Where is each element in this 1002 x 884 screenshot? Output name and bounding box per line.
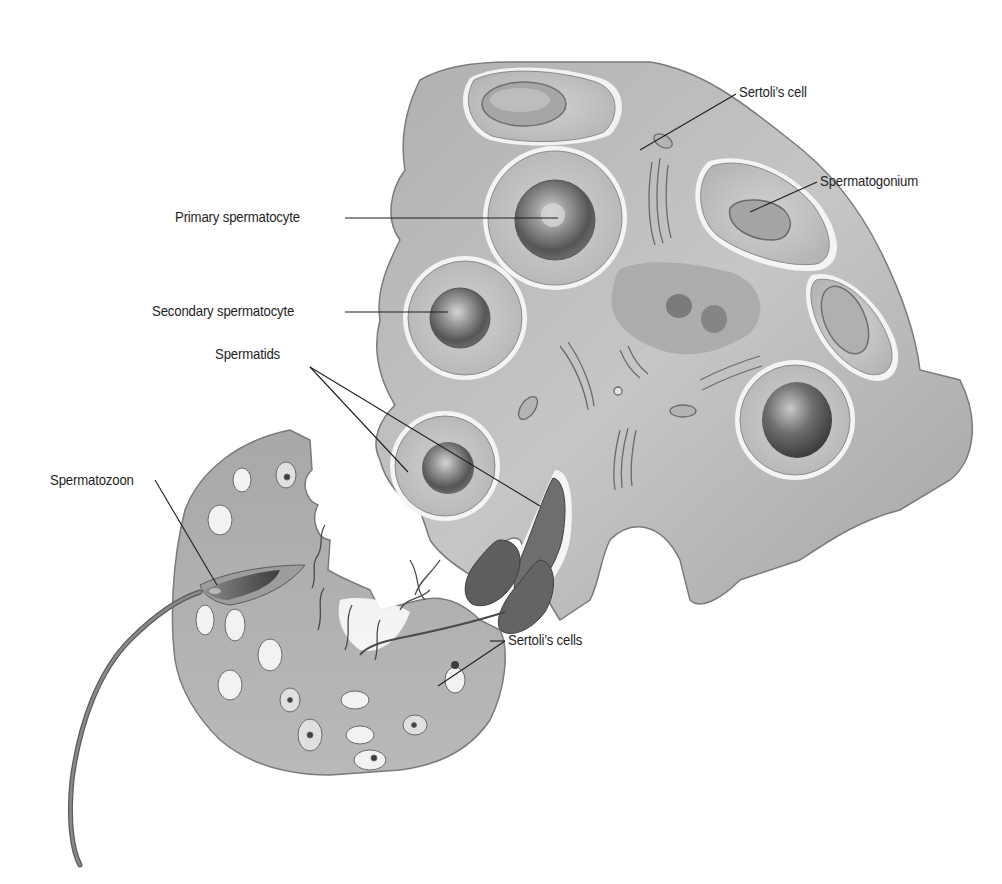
label-primary-spermatocyte: Primary spermatocyte (175, 208, 300, 225)
top-spermatogonium (463, 67, 622, 145)
dark-nucleus-cell (735, 360, 855, 480)
label-sertoli-cells: Sertoli’s cells (508, 631, 582, 648)
spermatid-round-cell (390, 411, 500, 521)
diagram-canvas: Sertoli’s cell Spermatogonium Primary sp… (0, 0, 1002, 884)
label-sertoli-cell: Sertoli’s cell (739, 83, 807, 100)
secondary-spermatocyte-cell (403, 256, 527, 380)
label-spermatids: Spermatids (215, 345, 280, 362)
label-spermatogonium: Spermatogonium (820, 172, 918, 189)
label-spermatozoon: Spermatozoon (50, 471, 134, 488)
label-secondary-spermatocyte: Secondary spermatocyte (152, 302, 294, 319)
spermatogenesis-illustration (0, 0, 1002, 884)
